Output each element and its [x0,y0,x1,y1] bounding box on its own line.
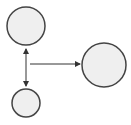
node-top-left [7,7,45,45]
node-bottom-left [12,89,40,117]
edges-layer [26,49,80,86]
diagram-canvas [0,0,131,125]
nodes-layer [7,7,126,117]
node-right [82,43,126,87]
